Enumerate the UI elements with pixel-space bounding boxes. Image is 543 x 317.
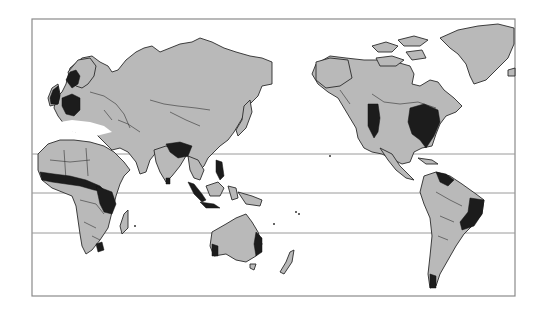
highlight-sw-australia: [212, 244, 218, 256]
world-map: [0, 0, 543, 317]
highlight-southern-chile: [430, 274, 436, 288]
highlight-sri-lanka: [166, 178, 170, 184]
